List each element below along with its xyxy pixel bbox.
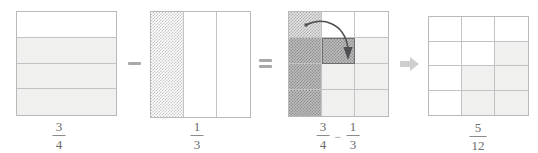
grid-cell xyxy=(462,42,495,67)
combined-overlay-grid xyxy=(288,11,389,117)
fraction-numerator: 5 xyxy=(475,121,482,135)
fraction-label-three-fourths-combined: 3 4 xyxy=(317,120,330,151)
grid-cell xyxy=(289,64,322,90)
grid-cell xyxy=(429,42,462,67)
fraction-denominator: 3 xyxy=(194,137,201,151)
grid-cell xyxy=(289,38,322,64)
grid-cell xyxy=(17,64,116,90)
grid-cell xyxy=(355,12,388,38)
equals-operator-icon xyxy=(259,59,272,68)
fraction-subtraction-diagram: 3 4 1 3 xyxy=(0,0,538,153)
grid-cell xyxy=(289,90,322,116)
grid-cell xyxy=(322,12,355,38)
fraction-numerator: 3 xyxy=(320,120,327,134)
fraction-numerator: 1 xyxy=(350,120,357,134)
grid-cell xyxy=(355,64,388,90)
grid-cell xyxy=(17,38,116,64)
fraction-denominator: 4 xyxy=(56,137,63,151)
minus-operator-icon xyxy=(128,62,141,65)
grid-cell xyxy=(322,64,355,90)
fraction-denominator: 3 xyxy=(350,137,357,151)
fraction-numerator: 3 xyxy=(56,120,63,134)
grid-cell xyxy=(495,66,528,91)
grid-cell xyxy=(355,90,388,116)
fraction-bar xyxy=(470,136,487,137)
grid-cell xyxy=(17,12,116,38)
grid-cell xyxy=(495,42,528,67)
fraction-label-one-third: 1 3 xyxy=(191,120,204,151)
fraction-bar xyxy=(346,135,359,136)
fraction-numerator: 1 xyxy=(194,120,201,134)
grid-cell xyxy=(355,38,388,64)
grid-cell xyxy=(429,66,462,91)
one-third-grid xyxy=(150,11,251,118)
fraction-denominator: 12 xyxy=(472,138,485,152)
combined-label-minus: − xyxy=(335,131,342,143)
fraction-denominator: 4 xyxy=(320,137,327,151)
grid-cell xyxy=(17,89,116,115)
grid-cell xyxy=(495,17,528,42)
grid-cell xyxy=(495,91,528,116)
grid-cell xyxy=(217,12,250,117)
fraction-bar xyxy=(191,135,204,136)
grid-cell xyxy=(151,12,184,117)
grid-cell xyxy=(184,12,217,117)
grid-cell xyxy=(322,90,355,116)
fraction-label-five-twelfths: 5 12 xyxy=(470,121,487,152)
grid-cell xyxy=(429,17,462,42)
grid-cell-target xyxy=(322,38,355,64)
grid-cell xyxy=(462,17,495,42)
five-twelfths-grid xyxy=(428,16,529,116)
result-arrow-icon xyxy=(400,56,420,72)
grid-cell xyxy=(462,66,495,91)
fraction-bar xyxy=(53,135,66,136)
grid-cell xyxy=(462,91,495,116)
grid-cell xyxy=(429,91,462,116)
fraction-label-three-fourths: 3 4 xyxy=(53,120,66,151)
fraction-bar xyxy=(317,135,330,136)
three-fourths-grid xyxy=(16,11,117,116)
combined-label-row: 3 4 − 1 3 xyxy=(317,120,360,151)
grid-cell xyxy=(289,12,322,38)
fraction-label-one-third-combined: 1 3 xyxy=(346,120,359,151)
